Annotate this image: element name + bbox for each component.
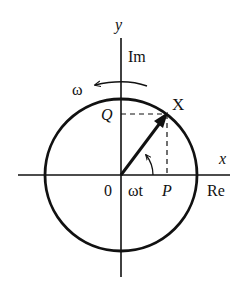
angle-arc (146, 155, 153, 175)
y-axis-label: y (113, 16, 123, 34)
real-axis-label: Re (207, 182, 225, 199)
omega-label: ω (72, 81, 83, 98)
angle-label: ωt (128, 182, 144, 199)
x-axis-label: x (218, 150, 226, 167)
p-point-label: P (161, 182, 172, 199)
phasor-arrow (121, 119, 163, 175)
origin-label: 0 (104, 182, 112, 199)
q-point-label: Q (101, 106, 113, 123)
phasor-diagram: y Im ω X Q x 0 ωt P Re (0, 0, 249, 287)
phasor-label: X (172, 95, 184, 114)
imag-axis-label: Im (128, 48, 146, 65)
